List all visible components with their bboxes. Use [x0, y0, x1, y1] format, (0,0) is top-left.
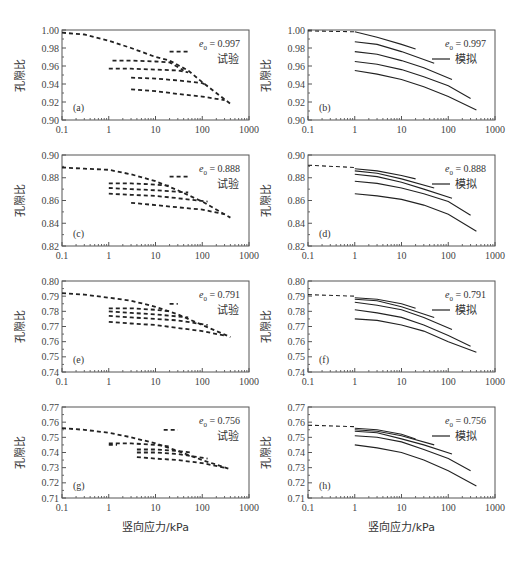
legend-label: 试验: [217, 429, 239, 443]
y-tick-label: 0.76: [288, 336, 306, 347]
x-tick-label: 0.1: [56, 124, 69, 135]
e0-annotation: e0 = 0.888: [199, 163, 240, 177]
y-tick-label: 0.77: [288, 402, 306, 413]
x-tick-label: 10: [397, 502, 407, 513]
y-tick-label: 0.76: [42, 336, 60, 347]
series-cycle-4: [355, 62, 471, 99]
y-axis-label: 孔隙比: [259, 310, 273, 343]
x-tick-label: 0.1: [302, 376, 315, 387]
y-tick-label: 0.75: [288, 432, 306, 443]
y-tick-label: 0.98: [42, 43, 60, 54]
y-tick-label: 0.88: [42, 172, 60, 183]
y-tick-label: 0.90: [42, 115, 60, 126]
series-reload-5: [109, 322, 225, 336]
x-tick-label: 0.1: [56, 376, 69, 387]
y-tick-label: 0.98: [288, 43, 306, 54]
panel-label: (c): [73, 228, 84, 240]
y-tick-label: 0.86: [288, 195, 306, 206]
legend-label: 模拟: [455, 429, 477, 443]
x-tick-label: 1000: [239, 250, 259, 261]
x-tick-label: 100: [195, 124, 210, 135]
y-tick-label: 0.75: [42, 351, 60, 362]
series-cycle-5: [355, 71, 477, 111]
legend-label: 试验: [217, 303, 239, 317]
series-reload-3: [109, 311, 188, 317]
x-tick-label: 100: [195, 376, 210, 387]
x-tick-label: 0.1: [302, 124, 315, 135]
chart-panel-b: 0.111010010000.900.920.940.960.981.00孔隙比…: [259, 25, 505, 136]
series-init: [308, 31, 355, 32]
x-tick-label: 100: [195, 502, 210, 513]
series-reload-5: [131, 89, 225, 100]
y-axis-label: 孔隙比: [259, 59, 273, 92]
y-tick-label: 0.94: [288, 79, 306, 90]
x-tick-label: 10: [151, 250, 161, 261]
x-tick-label: 0.1: [56, 502, 69, 513]
x-tick-label: 1000: [485, 124, 505, 135]
y-tick-label: 0.92: [288, 97, 306, 108]
series-cycle-3: [355, 52, 452, 80]
legend-label: 模拟: [455, 52, 477, 66]
y-tick-label: 0.84: [42, 218, 60, 229]
x-axis-label: 竖向应力/kPa: [368, 520, 435, 534]
figure-canvas: 0.111010010000.900.920.940.960.981.00孔隙比…: [0, 0, 524, 563]
y-axis-label: 孔隙比: [13, 59, 27, 92]
e0-annotation: e0 = 0.997: [445, 38, 486, 52]
y-axis-label: 孔隙比: [13, 436, 27, 469]
e0-annotation: e0 = 0.791: [445, 289, 486, 303]
series-cycle-5: [355, 194, 477, 232]
e0-annotation: e0 = 0.756: [445, 415, 486, 429]
y-tick-label: 0.82: [42, 241, 60, 252]
x-tick-label: 1: [106, 124, 111, 135]
chart-panel-e: 0.111010010000.740.750.760.770.780.790.8…: [13, 276, 259, 388]
x-tick-label: 1000: [239, 376, 259, 387]
chart-panel-f: 0.111010010000.740.750.760.770.780.790.8…: [259, 276, 505, 388]
x-tick-label: 1: [106, 376, 111, 387]
x-tick-label: 1: [106, 502, 111, 513]
y-tick-label: 0.94: [42, 79, 60, 90]
x-tick-label: 10: [151, 124, 161, 135]
y-tick-label: 0.90: [288, 150, 306, 161]
panel-label: (g): [73, 480, 85, 492]
x-tick-label: 10: [151, 376, 161, 387]
y-tick-label: 0.90: [42, 150, 60, 161]
series-reload-2: [109, 443, 170, 446]
x-tick-label: 1000: [485, 376, 505, 387]
x-tick-label: 100: [441, 124, 456, 135]
y-tick-label: 0.92: [42, 97, 60, 108]
y-tick-label: 0.73: [42, 462, 60, 473]
y-axis-label: 孔隙比: [259, 436, 273, 469]
x-tick-label: 10: [397, 376, 407, 387]
y-tick-label: 0.77: [42, 321, 60, 332]
y-tick-label: 0.71: [42, 493, 60, 504]
series-reload-4: [131, 78, 208, 86]
y-tick-label: 0.90: [288, 115, 306, 126]
y-tick-label: 0.74: [42, 367, 60, 378]
legend-label: 试验: [217, 52, 239, 66]
y-tick-label: 0.78: [288, 306, 306, 317]
y-tick-label: 0.77: [42, 402, 60, 413]
y-tick-label: 0.74: [42, 447, 60, 458]
x-tick-label: 10: [397, 250, 407, 261]
x-tick-label: 1: [106, 250, 111, 261]
y-axis-label: 孔隙比: [13, 184, 27, 217]
series-cycle-4: [355, 181, 471, 215]
y-tick-label: 0.80: [42, 276, 60, 287]
y-tick-label: 1.00: [288, 25, 306, 36]
y-tick-label: 0.79: [288, 291, 306, 302]
y-tick-label: 0.74: [288, 447, 306, 458]
y-tick-label: 0.72: [288, 477, 306, 488]
legend-label: 试验: [217, 177, 239, 191]
series-init: [308, 295, 355, 297]
y-axis-label: 孔隙比: [259, 184, 273, 217]
series-cycle-2: [355, 171, 434, 188]
y-tick-label: 0.78: [42, 306, 60, 317]
y-tick-label: 0.71: [288, 493, 306, 504]
series-cycle-4: [355, 436, 471, 471]
e0-annotation: e0 = 0.997: [199, 38, 240, 52]
x-tick-label: 100: [441, 250, 456, 261]
x-tick-label: 1: [352, 376, 357, 387]
panel-label: (e): [73, 354, 84, 366]
y-tick-label: 0.76: [42, 417, 60, 428]
x-tick-label: 1000: [485, 502, 505, 513]
